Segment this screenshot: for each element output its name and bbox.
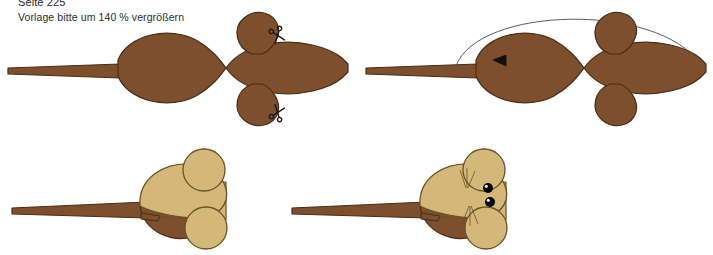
figure-template-flat: [0, 8, 360, 133]
ear-lower-shape: [185, 207, 227, 249]
eye-lower-icon: [485, 197, 495, 207]
craft-template-page: Seite 225 Vorlage bitte um 140 % vergröß…: [0, 0, 713, 255]
body-rear-shape: [118, 33, 226, 103]
finished-mouse-face: [292, 149, 507, 249]
tail-shape: [292, 202, 426, 218]
page-heading: Seite 225: [18, 0, 65, 8]
mouse-template-shape: [366, 12, 706, 125]
eye-upper-icon: [483, 183, 493, 193]
ear-upper-shape: [183, 149, 225, 191]
finished-mouse-plain: [12, 149, 227, 249]
ear-lower-shape: [465, 207, 507, 249]
body-rear-shape: [476, 33, 584, 103]
figure-model-face: [280, 140, 580, 255]
tail-shape: [366, 64, 478, 78]
mouse-template-shape: [8, 12, 348, 125]
tail-shape: [8, 64, 120, 78]
figure-model-plain: [0, 140, 300, 255]
figure-template-folded: [358, 8, 713, 133]
tail-shape: [12, 202, 146, 218]
